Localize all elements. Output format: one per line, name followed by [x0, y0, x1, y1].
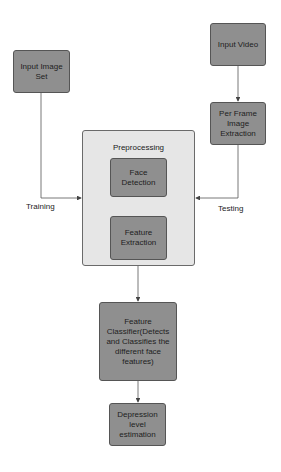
input-image-set-label: Input Image Set	[16, 62, 67, 82]
depression-estimation-label: Depression level estimation	[116, 410, 159, 440]
face-detection-label: Face Detection	[113, 168, 164, 188]
face-detection-node: Face Detection	[110, 158, 167, 197]
training-edge	[41, 93, 81, 198]
input-image-set-node: Input Image Set	[13, 50, 70, 93]
depression-estimation-node: Depression level estimation	[109, 403, 166, 446]
feature-extraction-label: Feature Extraction	[113, 228, 164, 248]
per-frame-extraction-label: Per Frame Image Extraction	[213, 109, 263, 139]
testing-label: Testing	[218, 204, 243, 213]
input-video-label: Input Video	[218, 40, 258, 50]
preprocessing-title: Preprocessing	[83, 143, 194, 152]
testing-edge	[196, 145, 238, 198]
per-frame-extraction-node: Per Frame Image Extraction	[210, 102, 266, 145]
input-video-node: Input Video	[210, 23, 266, 66]
feature-extraction-node: Feature Extraction	[110, 216, 167, 260]
feature-classifier-node: Feature Classifier(Detects and Classifie…	[99, 302, 177, 381]
feature-classifier-label: Feature Classifier(Detects and Classifie…	[106, 317, 170, 367]
training-label: Training	[26, 202, 55, 211]
